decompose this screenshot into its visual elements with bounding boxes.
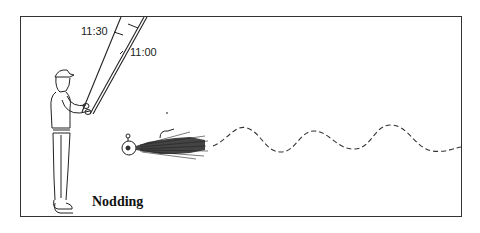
nodding-illustration: [0, 0, 480, 233]
speck: [166, 112, 168, 114]
angler-icon: [51, 70, 91, 213]
angle-label-11-00: 11:00: [130, 46, 157, 58]
retrieve-path: [213, 125, 462, 152]
angle-label-11-30: 11:30: [81, 25, 108, 37]
figure-caption: Nodding: [92, 194, 143, 210]
jig-lure-icon: [122, 129, 208, 159]
